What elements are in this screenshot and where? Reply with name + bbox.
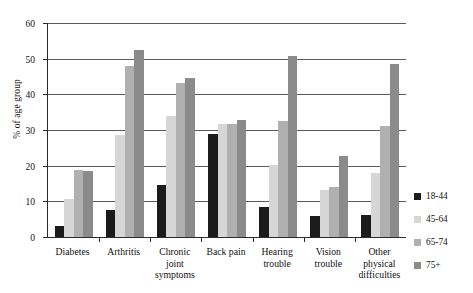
bar (329, 187, 339, 237)
bar (166, 116, 176, 237)
bar (208, 134, 218, 237)
bar (361, 215, 371, 237)
bar-group (259, 23, 297, 237)
bar-group (310, 23, 348, 237)
x-tick-mark (253, 237, 254, 242)
bar (74, 170, 84, 237)
bar (320, 190, 330, 237)
bar (371, 173, 381, 237)
legend-swatch-icon (414, 216, 421, 223)
bar (269, 165, 279, 237)
bar-group (361, 23, 399, 237)
y-tick-mark: 30 (43, 130, 48, 131)
bar (278, 121, 288, 237)
x-axis-label: Diabetes (47, 246, 98, 258)
legend-item[interactable]: 75+ (414, 255, 441, 267)
bar-chart: % of age group 0102030405060 DiabetesArt… (0, 0, 473, 293)
legend-item[interactable]: 18-44 (414, 186, 448, 198)
y-tick-mark: 60 (43, 23, 48, 24)
bar-group (157, 23, 195, 237)
legend-label: 45-64 (426, 214, 448, 224)
y-tick-label: 30 (26, 126, 36, 136)
y-tick-mark: 0 (43, 237, 48, 238)
legend-label: 18-44 (426, 191, 448, 201)
x-tick-mark (150, 237, 151, 242)
x-tick-mark (304, 237, 305, 242)
y-tick-mark: 40 (43, 94, 48, 95)
bar (64, 199, 74, 237)
y-tick-mark: 50 (43, 59, 48, 60)
legend-label: 75+ (426, 260, 441, 270)
legend-item[interactable]: 65-74 (414, 232, 448, 244)
legend-swatch-icon (414, 262, 421, 269)
bar (259, 207, 269, 237)
legend-swatch-icon (414, 239, 421, 246)
x-axis-label: Chronic joint symptoms (149, 246, 200, 281)
bar-group (55, 23, 93, 237)
legend-item[interactable]: 45-64 (414, 209, 448, 221)
bar (380, 126, 390, 237)
y-axis-title: % of age group (12, 59, 22, 159)
y-tick-label: 0 (30, 233, 35, 243)
x-tick-mark (201, 237, 202, 242)
x-axis-label: Back pain (200, 246, 251, 258)
bar (115, 135, 125, 237)
plot-area: 0102030405060 (47, 23, 406, 238)
bar (390, 64, 400, 237)
x-tick-mark (355, 237, 356, 242)
bar (176, 83, 186, 237)
x-axis-label: Other physical difficulties (354, 246, 405, 281)
bar (125, 66, 135, 237)
bar (218, 124, 228, 237)
bar (106, 210, 116, 237)
bar (288, 56, 298, 237)
bar (83, 171, 93, 237)
bar (134, 50, 144, 237)
bar-group (208, 23, 246, 237)
bar (157, 185, 167, 237)
bar (339, 156, 349, 237)
x-axis-label: Arthritis (98, 246, 149, 258)
bar (55, 226, 65, 237)
x-axis-label: Vision trouble (303, 246, 354, 269)
y-tick-label: 50 (26, 55, 36, 65)
bar (310, 216, 320, 237)
bar (227, 124, 237, 237)
legend-label: 65-74 (426, 237, 448, 247)
y-tick-label: 10 (26, 197, 36, 207)
bar (237, 120, 247, 237)
x-tick-mark (99, 237, 100, 242)
legend-swatch-icon (414, 193, 421, 200)
y-tick-mark: 10 (43, 201, 48, 202)
y-tick-label: 60 (26, 19, 36, 29)
bar-group (106, 23, 144, 237)
x-axis-label: Hearing trouble (252, 246, 303, 269)
bar (185, 78, 195, 237)
y-tick-label: 20 (26, 162, 36, 172)
y-tick-label: 40 (26, 90, 36, 100)
y-tick-mark: 20 (43, 166, 48, 167)
